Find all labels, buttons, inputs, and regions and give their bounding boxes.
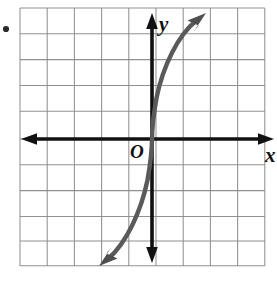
- ink-speck: [3, 26, 9, 32]
- y-axis-label: y: [159, 14, 168, 35]
- origin-label: O: [130, 142, 144, 161]
- graph-figure: y x O: [0, 0, 277, 284]
- x-axis-label: x: [265, 145, 276, 166]
